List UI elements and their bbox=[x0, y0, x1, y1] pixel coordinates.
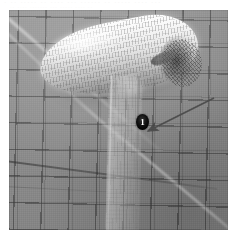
scan-residue-line-2: ·· ···· ······· ··· ····· ···· ·· bbox=[10, 4, 93, 9]
film-grain-overlay bbox=[9, 10, 228, 230]
scan-text-residue: · ·· ····· ·· ···· ··· ······ ·· ····· ·… bbox=[0, 0, 238, 9]
figure-photo: 1 bbox=[9, 10, 228, 230]
